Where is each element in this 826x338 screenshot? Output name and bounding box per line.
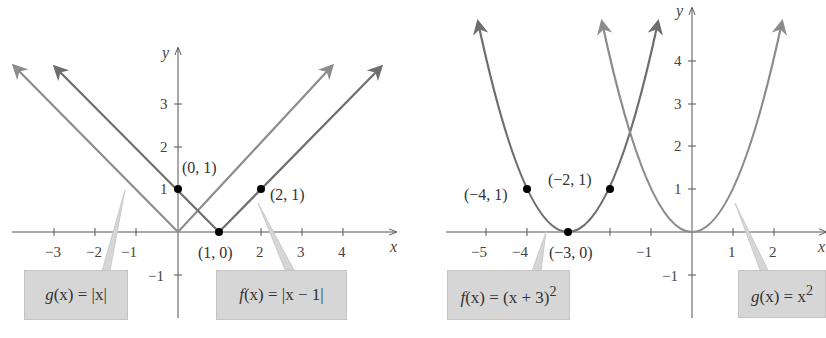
left-point-label: (2, 1) (270, 186, 305, 204)
right-x-tick-label: −5 (471, 244, 487, 260)
callout-func-expr: (x) = x (760, 286, 806, 305)
left-point-0-1 (174, 185, 182, 193)
callout-func-name: g (751, 286, 760, 305)
right-y-tick-label: −1 (662, 268, 678, 284)
right-callout-g-pointer (735, 203, 768, 270)
right-point-label: (−3, 0) (549, 244, 593, 262)
right-callout-f: f(x) = (x + 3)2 (447, 270, 570, 320)
left-point-1-0 (215, 228, 223, 236)
right-y-tick-label: 3 (674, 96, 682, 112)
left-x-tick-label: −2 (86, 244, 102, 260)
right-point-label: (−2, 1) (548, 171, 592, 189)
right-x-tick-label: −1 (636, 244, 652, 260)
left-callout-f: f(x) = |x − 1| (216, 270, 347, 320)
left-y-tick-label: 2 (160, 139, 168, 155)
left-callout-g: g(x) = |x| (24, 270, 128, 320)
left-y-tick-label: −1 (148, 268, 164, 284)
right-y-tick-label: 2 (674, 138, 682, 154)
right-point-m2-1 (606, 185, 614, 193)
right-y-tick-label: 4 (674, 53, 682, 69)
right-x-tick-label: 2 (769, 244, 777, 260)
left-point-label: (0, 1) (182, 159, 217, 177)
callout-func-expr: (x) = (x + 3) (465, 287, 549, 306)
right-x-tick-label: −4 (512, 244, 528, 260)
right-x-axis-label: x (817, 238, 825, 255)
left-x-axis-label: x (389, 238, 397, 255)
left-y-tick-label: 3 (160, 96, 168, 112)
right-x-tick-label: 1 (728, 244, 736, 260)
left-y-axis-label: y (160, 44, 170, 62)
left-point-label: (1, 0) (198, 244, 233, 262)
right-callout-f-pointer (532, 232, 546, 271)
right-y-axis-label: y (674, 2, 684, 20)
right-point-label: (−4, 1) (464, 186, 508, 204)
callout-exponent: 2 (806, 282, 813, 298)
left-point-2-1 (257, 185, 265, 193)
left-x-tick-label: 3 (297, 244, 305, 260)
right-callout-g: g(x) = x2 (738, 270, 826, 318)
callout-func-expr: (x) = |x| (54, 285, 107, 304)
callout-func-name: g (45, 285, 54, 304)
left-x-tick-label: 2 (256, 244, 264, 260)
right-y-tick-label: 1 (674, 181, 682, 197)
left-curve-f-abs-x-minus-1 (55, 67, 381, 232)
callout-func-expr: (x) = |x − 1| (244, 285, 324, 304)
left-x-tick-label: −1 (121, 244, 137, 260)
left-curve-g-abs-x (14, 66, 332, 232)
left-y-tick-label: 1 (160, 181, 168, 197)
right-point-m4-1 (523, 185, 531, 193)
left-x-tick-label: 4 (338, 244, 346, 260)
left-x-tick-label: −3 (45, 244, 61, 260)
callout-exponent: 2 (549, 283, 556, 299)
right-point-m3-0 (564, 228, 572, 236)
